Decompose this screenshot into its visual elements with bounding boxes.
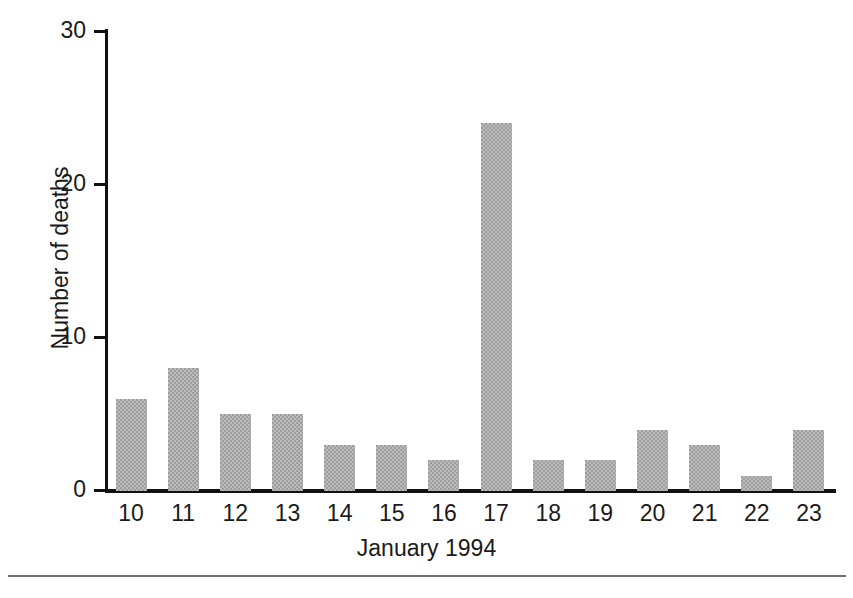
caption-rule — [8, 575, 846, 577]
bar-day-11 — [168, 368, 199, 491]
bar-day-20 — [637, 430, 668, 491]
x-tick-label-10: 10 — [101, 500, 161, 526]
y-tick-label-30: 30 — [28, 19, 86, 42]
x-tick-label-12: 12 — [205, 500, 265, 526]
bar-day-12 — [220, 414, 251, 491]
x-tick-label-13: 13 — [258, 500, 318, 526]
y-tick-label-20: 20 — [28, 172, 86, 195]
bar-day-14 — [324, 445, 355, 491]
x-tick-label-17: 17 — [466, 500, 526, 526]
x-tick-label-18: 18 — [518, 500, 578, 526]
y-tick-30 — [94, 30, 105, 33]
bar-day-15 — [376, 445, 407, 491]
y-tick-label-20-wrap: 20 — [24, 172, 86, 196]
bar-day-23 — [793, 430, 824, 491]
x-tick-label-14: 14 — [310, 500, 370, 526]
x-tick-label-21: 21 — [675, 500, 735, 526]
y-tick-10 — [94, 336, 105, 339]
bar-day-17 — [481, 123, 512, 491]
x-tick-label-23: 23 — [779, 500, 839, 526]
x-tick-label-16: 16 — [414, 500, 474, 526]
x-tick-label-15: 15 — [362, 500, 422, 526]
bar-day-18 — [533, 460, 564, 491]
bar-day-21 — [689, 445, 720, 491]
x-tick-label-20: 20 — [623, 500, 683, 526]
y-tick-label-0: 0 — [28, 478, 86, 501]
figure-bar-chart: Number of deaths 30 20 10 0 101112131415… — [0, 0, 853, 598]
y-tick-label-10-wrap: 10 — [24, 325, 86, 349]
bar-day-19 — [585, 460, 616, 491]
y-tick-0 — [94, 489, 105, 492]
y-tick-label-0-wrap: 0 — [24, 478, 86, 502]
x-axis-title: January 1994 — [0, 535, 853, 561]
x-tick-label-11: 11 — [153, 500, 213, 526]
y-tick-20 — [94, 183, 105, 186]
y-tick-label-10: 10 — [28, 325, 86, 348]
plot-area — [105, 31, 835, 491]
bar-day-10 — [116, 399, 147, 491]
y-axis-title: Number of deaths — [47, 103, 73, 413]
x-tick-label-19: 19 — [570, 500, 630, 526]
x-tick-label-22: 22 — [727, 500, 787, 526]
y-axis-title-holder: Number of deaths — [32, 0, 60, 500]
bar-day-13 — [272, 414, 303, 491]
y-tick-label-30-wrap: 30 — [24, 19, 86, 43]
bar-day-22 — [741, 476, 772, 491]
caption-fragment — [8, 585, 846, 598]
bar-day-16 — [428, 460, 459, 491]
